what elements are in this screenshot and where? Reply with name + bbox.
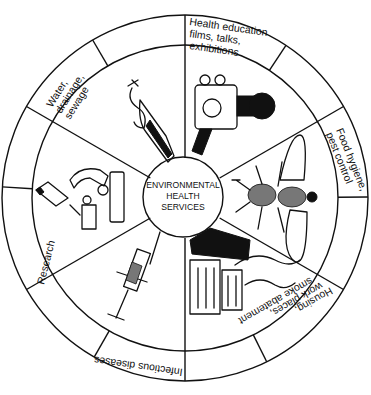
label-health-education: Health education films, talks, exhibitio…	[189, 15, 269, 58]
label-water: Water, drainage, sewage	[44, 72, 91, 122]
sector-divider	[27, 107, 151, 179]
svg-text:Research: Research	[34, 239, 57, 286]
label-band-divider	[2, 187, 32, 189]
label-band-divider	[94, 331, 109, 357]
center-label-line-1: ENVIRONMENTAL	[146, 180, 220, 190]
microscope-icon	[36, 169, 124, 229]
syringe-icon	[108, 232, 160, 320]
water-tap-icon	[128, 80, 174, 162]
label-band-divider	[93, 40, 108, 66]
center-label-line-2: HEALTH	[166, 191, 199, 201]
label-research: Research	[34, 239, 57, 286]
label-band-divider	[253, 335, 266, 362]
label-band-divider	[269, 45, 286, 70]
environmental-health-wheel: ENVIRONMENTAL HEALTH SERVICES Health edu…	[0, 0, 371, 395]
center-label-line-3: SERVICES	[161, 202, 205, 212]
movie-camera-icon	[192, 75, 275, 155]
label-housing: Housing, work places, smoke abatement	[237, 275, 335, 327]
